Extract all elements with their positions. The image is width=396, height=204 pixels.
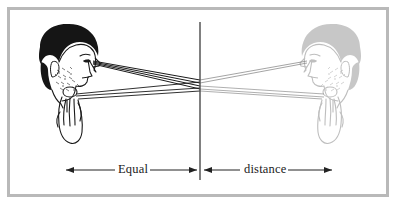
figure-canvas [0,0,396,204]
mirror-ear [341,61,350,77]
equal-label: Equal [118,162,148,177]
figure-page: Equal distance [0,0,396,204]
mirror-hair [302,24,361,64]
observer-ear [51,61,60,77]
mirror-nose [300,58,307,67]
mirror-image-figure [300,24,361,144]
observer-figure [39,24,100,144]
observer-hair [39,24,98,64]
observer-brow [80,54,90,56]
mirror-brow [310,54,320,56]
distance-label: distance [244,162,287,177]
